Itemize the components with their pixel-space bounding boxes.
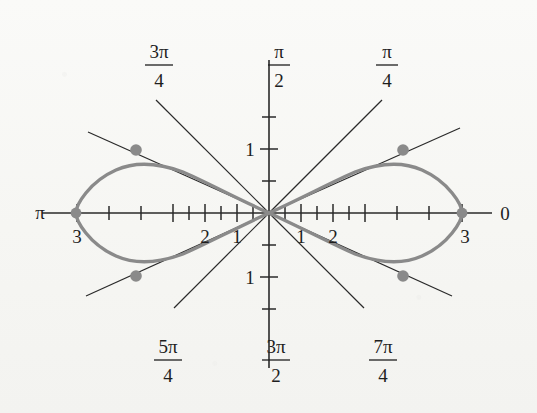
point-lower-left <box>130 270 142 282</box>
angle-label-7pi-over-4-numerator: 7π <box>373 336 393 357</box>
angle-label-pi-over-2-numerator: π <box>274 41 284 62</box>
point-upper-left <box>130 144 142 156</box>
tick-label-down-1: 1 <box>245 267 255 288</box>
tick-label-left-1: 1 <box>232 226 242 247</box>
angle-label-pi-over-2-denominator: 2 <box>274 70 284 91</box>
ray-5pi-over-4 <box>174 213 269 308</box>
angle-label-pi-over-4: π 4 <box>376 41 398 91</box>
angle-label-pi-over-4-numerator: π <box>382 41 392 62</box>
point-r3-theta-0 <box>457 208 468 219</box>
point-lower-right <box>397 270 409 282</box>
ray-7pi-over-4 <box>269 213 364 308</box>
tick-label-right-2: 2 <box>328 226 338 247</box>
angle-label-zero: 0 <box>500 203 510 224</box>
angle-label-pi-over-2: π 2 <box>268 41 290 91</box>
tick-label-left-2: 2 <box>200 226 210 247</box>
angle-label-5pi-over-4: 5π 4 <box>154 336 182 386</box>
point-r3-theta-pi <box>71 208 82 219</box>
angle-label-3pi-over-4-denominator: 4 <box>154 70 164 91</box>
polar-plot-svg: 3π 4 π 2 π 4 5π 4 3π 2 7π <box>0 0 537 413</box>
angle-label-7pi-over-4-denominator: 4 <box>378 365 388 386</box>
angle-label-pi: π <box>35 202 45 223</box>
angle-label-5pi-over-4-denominator: 4 <box>163 365 173 386</box>
angle-label-3pi-over-2-denominator: 2 <box>271 365 281 386</box>
angle-label-3pi-over-4: 3π 4 <box>145 41 173 91</box>
angle-label-3pi-over-2-numerator: 3π <box>266 336 286 357</box>
angle-label-3pi-over-2: 3π 2 <box>262 336 290 386</box>
ray-pi-over-4 <box>269 100 382 213</box>
tick-label-up-1: 1 <box>245 139 255 160</box>
angle-label-7pi-over-4: 7π 4 <box>369 336 397 386</box>
tick-label-right-3: 3 <box>460 226 470 247</box>
angle-label-3pi-over-4-numerator: 3π <box>149 41 169 62</box>
polar-plot-figure: 3π 4 π 2 π 4 5π 4 3π 2 7π <box>0 0 537 413</box>
angle-label-pi-over-4-denominator: 4 <box>382 70 392 91</box>
tick-label-right-1: 1 <box>296 226 306 247</box>
tick-label-left-3: 3 <box>72 226 82 247</box>
angle-label-5pi-over-4-numerator: 5π <box>158 336 178 357</box>
point-upper-right <box>397 144 409 156</box>
